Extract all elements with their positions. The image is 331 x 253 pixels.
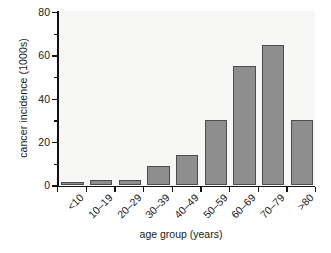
y-tick-minor — [54, 164, 58, 165]
x-axis-title: age group (years) — [47, 228, 315, 240]
y-tick-label: 20 — [38, 137, 50, 148]
bar — [233, 66, 255, 185]
y-tick-major — [52, 12, 57, 13]
y-tick-minor — [54, 120, 58, 121]
bar — [205, 120, 227, 185]
x-axis-tick-labels: <1010–1920–2930–3940–4950–5960–6970–79>8… — [57, 192, 315, 230]
y-tick-minor — [54, 34, 58, 35]
bar — [262, 45, 284, 186]
y-tick-major — [52, 142, 57, 143]
y-tick-label: 0 — [44, 180, 50, 191]
y-tick-minor — [54, 77, 58, 78]
caption-sliver — [8, 246, 323, 253]
x-tick-label: <10 — [0, 192, 86, 253]
x-axis-line — [57, 186, 315, 188]
chart-figure: cancer incidence (1000s) 020406080 <1010… — [0, 0, 331, 253]
y-tick-label: 40 — [38, 93, 50, 104]
y-tick-label: 60 — [38, 50, 50, 61]
x-tick — [315, 187, 316, 192]
bar — [147, 166, 169, 186]
y-axis-title: cancer incidence (1000s) — [17, 18, 29, 178]
bar — [176, 155, 198, 185]
y-tick-major — [52, 55, 57, 56]
bar — [291, 120, 313, 185]
y-tick-label: 80 — [38, 7, 50, 18]
y-tick-major — [52, 99, 57, 100]
plot-area: 020406080 — [57, 11, 315, 187]
y-axis-line — [57, 11, 59, 187]
